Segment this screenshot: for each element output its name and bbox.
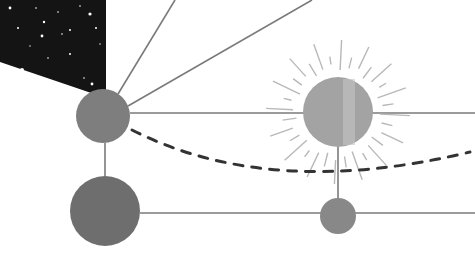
sun-ray: [379, 83, 386, 87]
star-icon: [43, 21, 45, 23]
sun-ray: [293, 79, 302, 86]
sun-ray: [378, 88, 406, 98]
sun-ray: [359, 47, 369, 69]
sun-ray: [305, 151, 310, 157]
star-icon: [47, 57, 49, 59]
star-icon: [35, 7, 37, 9]
sun-ray: [290, 135, 299, 141]
sun-ray: [363, 153, 367, 160]
small-planet: [320, 198, 356, 234]
sun-ray: [340, 40, 341, 70]
sun-ray: [270, 128, 293, 136]
sun-ray: [285, 140, 307, 160]
star-icon: [69, 53, 71, 55]
solar-system-illustration: [0, 0, 475, 265]
star-icon: [61, 33, 63, 35]
star-icon: [99, 43, 100, 44]
sun-ray: [349, 58, 352, 69]
sun-ray: [345, 157, 347, 168]
sun-ray: [381, 133, 403, 143]
connector-lines: [105, 0, 475, 213]
sun-ray: [309, 64, 316, 76]
planet-upper-left: [76, 89, 130, 143]
sun-ray: [382, 123, 393, 126]
sun-highlight: [343, 79, 355, 145]
sun-ray: [380, 114, 410, 115]
sun-ray: [330, 57, 331, 65]
sun-ray: [383, 104, 394, 106]
sun-ray: [363, 67, 371, 78]
connector-line: [118, 0, 175, 94]
star-icon: [83, 77, 85, 79]
star-icon: [9, 7, 12, 10]
sun-ray: [283, 118, 297, 120]
sun: [303, 77, 373, 147]
dashed-orbit-path: [132, 130, 470, 172]
planet-lower-left: [70, 176, 140, 246]
sun-ray: [266, 108, 293, 109]
star-icon: [79, 5, 81, 7]
sun-ray: [334, 160, 335, 184]
sun-ray: [290, 59, 306, 77]
sun-ray: [307, 153, 319, 177]
star-icon: [41, 35, 44, 38]
sun-ray: [324, 153, 327, 167]
star-icon: [88, 12, 91, 15]
star-icon: [29, 45, 30, 46]
sun-ray: [372, 137, 383, 145]
star-icon: [95, 27, 97, 29]
sun-ray: [371, 64, 391, 82]
sun-ray: [284, 98, 292, 100]
star-icon: [20, 68, 24, 72]
sun-ray: [368, 145, 386, 165]
sun-ray: [352, 152, 362, 180]
star-icon: [17, 27, 19, 29]
connector-line: [128, 0, 312, 106]
star-icon: [69, 29, 71, 31]
sun-ray: [273, 81, 300, 94]
starry-sky: [0, 0, 106, 98]
sun-ray: [314, 44, 323, 69]
star-icon: [57, 11, 59, 13]
star-icon: [91, 83, 94, 86]
